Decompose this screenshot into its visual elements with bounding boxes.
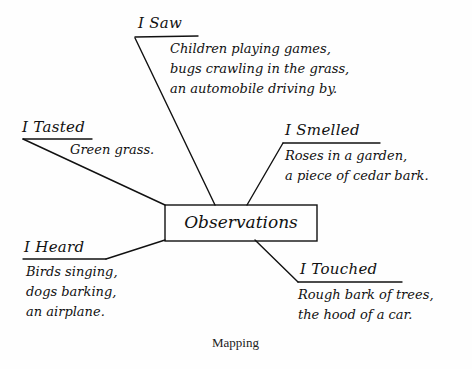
branch-label-saw: I Saw (138, 14, 182, 32)
heard-line-2: dogs barking, (26, 282, 118, 302)
heard-line-3: an airplane. (26, 302, 118, 322)
branch-text-smelled: Roses in a garden, a piece of cedar bark… (285, 146, 429, 186)
heard-connector (106, 240, 165, 259)
branch-label-smelled: I Smelled (285, 121, 360, 139)
touched-connector (255, 240, 298, 282)
mapping-diagram: I Saw Children playing games, bugs crawl… (0, 0, 472, 369)
smelled-line-2: a piece of cedar bark. (285, 166, 429, 186)
branch-label-tasted: I Tasted (22, 118, 85, 136)
smelled-line-1: Roses in a garden, (285, 146, 429, 166)
saw-line-3: an automobile driving by. (170, 79, 349, 99)
branch-text-heard: Birds singing, dogs barking, an airplane… (26, 262, 118, 322)
branch-text-tasted: Green grass. (70, 140, 154, 160)
branch-label-heard: I Heard (24, 238, 84, 256)
touched-line-1: Rough bark of trees, (298, 285, 434, 305)
saw-line-1: Children playing games, (170, 39, 349, 59)
tasted-line-1: Green grass. (70, 140, 154, 160)
branch-text-touched: Rough bark of trees, the hood of a car. (298, 285, 434, 325)
branch-label-touched: I Touched (300, 260, 377, 278)
saw-underline (135, 36, 198, 37)
touched-line-2: the hood of a car. (298, 305, 434, 325)
heard-line-1: Birds singing, (26, 262, 118, 282)
smelled-connector (247, 143, 283, 205)
saw-line-2: bugs crawling in the grass, (170, 59, 349, 79)
branch-text-saw: Children playing games, bugs crawling in… (170, 39, 349, 99)
figure-caption: Mapping (212, 335, 259, 351)
center-node-label: Observations (165, 212, 317, 232)
